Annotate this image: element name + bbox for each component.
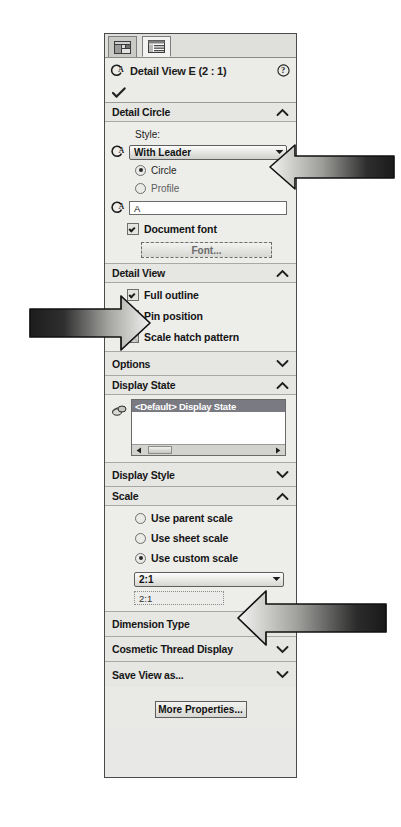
style-combobox[interactable]: With Leader: [129, 145, 287, 160]
style-label: Style:: [135, 129, 160, 140]
chevron-down-icon[interactable]: [269, 573, 283, 586]
display-state-selected-value: <Default> Display State: [135, 401, 236, 412]
list-item[interactable]: <Default> Display State: [132, 400, 285, 412]
section-label-save-view-as: Save View as...: [112, 669, 184, 681]
display-state-listbox[interactable]: <Default> Display State: [131, 399, 286, 456]
svg-text:A: A: [119, 146, 125, 155]
radio-label-circle: Circle: [151, 165, 177, 176]
section-header-detail-view[interactable]: Detail View: [105, 264, 296, 283]
section-header-scale[interactable]: Scale: [105, 487, 296, 506]
radio-profile[interactable]: [135, 183, 146, 194]
checkmark-icon: [112, 87, 126, 99]
section-label-detail-circle: Detail Circle: [112, 106, 170, 118]
page-title: Detail View E (2 : 1): [130, 65, 277, 77]
scale-text-value: 2:1: [139, 593, 152, 604]
section-header-display-style[interactable]: Display Style: [105, 463, 296, 487]
radio-circle[interactable]: [135, 165, 146, 176]
chevron-down-icon: [276, 670, 289, 679]
document-font-checkbox[interactable]: [127, 223, 139, 235]
scale-hatch-label: Scale hatch pattern: [144, 331, 239, 343]
configuration-manager-tab[interactable]: [142, 36, 171, 57]
detail-label-value: A: [134, 203, 140, 214]
detail-label-row: A A: [105, 197, 296, 217]
style-combobox-value: With Leader: [134, 147, 191, 158]
panel-title-bar: A Detail View E (2 : 1) ?: [105, 58, 296, 83]
list-table-icon: [148, 40, 165, 53]
chevron-down-icon: [276, 359, 289, 368]
radio-row-sheet-scale[interactable]: Use sheet scale: [105, 527, 296, 547]
section-header-save-view-as[interactable]: Save View as...: [105, 662, 296, 687]
svg-text:?: ?: [281, 65, 285, 75]
full-outline-label: Full outline: [144, 289, 199, 301]
scale-combobox-value: 2:1: [139, 574, 153, 585]
section-header-options[interactable]: Options: [105, 352, 296, 376]
panel-footer: More Properties...: [105, 687, 296, 728]
radio-use-custom-scale[interactable]: [135, 553, 146, 564]
section-header-detail-circle[interactable]: Detail Circle: [105, 103, 296, 122]
scale-combo-row: 2:1: [105, 567, 296, 587]
chevron-up-icon: [276, 492, 289, 501]
font-button[interactable]: Font...: [141, 242, 272, 258]
chevron-up-icon: [276, 108, 289, 117]
section-label-display-style: Display Style: [112, 469, 175, 481]
display-state-list-row: <Default> Display State: [105, 398, 296, 457]
style-label-row: Style:: [105, 125, 296, 143]
font-button-row: Font...: [105, 238, 296, 258]
section-label-display-state: Display State: [112, 379, 175, 391]
label-use-sheet-scale: Use sheet scale: [151, 532, 228, 544]
more-properties-button[interactable]: More Properties...: [155, 701, 247, 718]
section-label-scale: Scale: [112, 490, 138, 502]
display-state-icon: [111, 403, 128, 418]
scale-combobox[interactable]: 2:1: [134, 572, 284, 587]
svg-text:A: A: [118, 65, 124, 74]
pin-position-label: Pin position: [144, 310, 203, 322]
help-question-icon[interactable]: ?: [277, 64, 290, 77]
section-label-options: Options: [112, 358, 150, 370]
detail-view-icon: A: [110, 64, 125, 78]
section-label-detail-view: Detail View: [112, 267, 165, 279]
horizontal-scrollbar[interactable]: [132, 444, 285, 455]
callout-arrow-scale-dropdown: [236, 589, 388, 647]
callout-arrow-style-dropdown: [268, 142, 396, 192]
radio-label-profile: Profile: [151, 183, 179, 194]
property-manager-tab[interactable]: [108, 36, 137, 57]
scale-text-input[interactable]: 2:1: [134, 591, 224, 605]
chevron-up-icon: [276, 381, 289, 390]
property-manager-icon: [114, 41, 131, 54]
font-button-label: Font...: [192, 245, 222, 256]
callout-arrow-detail-view-section: [28, 292, 152, 354]
document-font-label: Document font: [144, 223, 217, 235]
section-body-display-state: <Default> Display State: [105, 395, 296, 463]
label-use-parent-scale: Use parent scale: [151, 512, 233, 524]
document-font-row[interactable]: Document font: [105, 217, 296, 238]
section-header-display-state[interactable]: Display State: [105, 376, 296, 395]
detail-label-icon: A: [110, 201, 126, 215]
ok-button[interactable]: [105, 83, 296, 103]
radio-row-parent-scale[interactable]: Use parent scale: [105, 509, 296, 527]
radio-row-custom-scale[interactable]: Use custom scale: [105, 547, 296, 567]
chevron-up-icon: [276, 269, 289, 278]
section-label-dimension-type: Dimension Type: [112, 618, 190, 630]
scroll-left-arrow-icon[interactable]: [133, 447, 145, 454]
label-use-custom-scale: Use custom scale: [151, 552, 238, 564]
more-properties-label: More Properties...: [158, 704, 242, 715]
detail-label-input[interactable]: A: [129, 201, 287, 215]
tab-strip: [105, 34, 296, 58]
radio-use-parent-scale[interactable]: [135, 513, 146, 524]
chevron-down-icon: [276, 470, 289, 479]
scroll-right-arrow-icon[interactable]: [272, 447, 284, 454]
detail-circle-icon: A: [110, 145, 126, 159]
section-label-cosmetic-thread-display: Cosmetic Thread Display: [112, 643, 233, 655]
radio-use-sheet-scale[interactable]: [135, 533, 146, 544]
svg-text:A: A: [119, 202, 125, 211]
scrollbar-thumb[interactable]: [148, 446, 172, 454]
